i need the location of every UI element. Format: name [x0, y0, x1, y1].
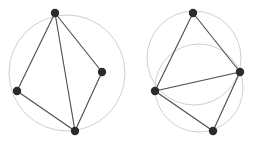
circumcircle — [147, 11, 241, 105]
vertex-left — [151, 87, 159, 95]
edge-left-bottom — [155, 91, 213, 131]
edge-top-bottom — [55, 13, 75, 131]
right-figure — [147, 9, 244, 135]
left-figure — [9, 9, 125, 135]
vertex-right — [236, 68, 244, 76]
vertex-top — [189, 9, 197, 17]
edge-top-left — [17, 13, 55, 91]
diagram-canvas — [0, 0, 258, 144]
edge-left-right — [155, 72, 240, 91]
vertex-bottom — [209, 127, 217, 135]
vertex-bottom — [71, 127, 79, 135]
vertex-left — [13, 87, 21, 95]
edge-left-bottom — [17, 91, 75, 131]
circumcircle — [9, 15, 125, 131]
vertex-right — [98, 68, 106, 76]
vertex-top — [51, 9, 59, 17]
edge-top-right — [193, 13, 240, 72]
